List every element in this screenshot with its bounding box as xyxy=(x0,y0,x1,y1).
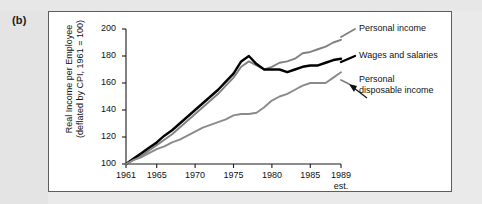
series-label-personal-income: Personal income xyxy=(359,23,426,34)
series-lines xyxy=(126,40,341,164)
figure-frame: Real Income per Employee (deflated by CP… xyxy=(48,11,452,192)
scan-texture-left xyxy=(0,0,48,204)
series-label-pd-line1: Personal xyxy=(359,74,395,84)
x-tick-label: 1989 xyxy=(324,170,358,180)
y-tick-label: 120 xyxy=(90,131,116,141)
x-tick-label: 1965 xyxy=(140,170,174,180)
y-tick-label: 180 xyxy=(90,50,116,60)
series-label-pd-line2: disposable income xyxy=(359,85,434,95)
x-axis-est-note: est. xyxy=(324,181,358,191)
y-tick-label: 200 xyxy=(90,23,116,33)
x-tick-label: 1975 xyxy=(217,170,251,180)
series-label-personal-disposable-income: Personal disposable income xyxy=(359,74,434,95)
figure-root: (b) Real Income per Employee (deflated b… xyxy=(0,0,482,204)
x-tick-label: 1980 xyxy=(255,170,289,180)
y-tick-label: 140 xyxy=(90,104,116,114)
y-tick-label: 100 xyxy=(90,158,116,168)
x-tick-label: 1985 xyxy=(293,170,327,180)
y-tick-label: 160 xyxy=(90,77,116,87)
x-tick-label: 1961 xyxy=(109,170,143,180)
series-label-wages-and-salaries: Wages and salaries xyxy=(359,50,438,61)
x-tick-label: 1970 xyxy=(178,170,212,180)
panel-label: (b) xyxy=(12,14,27,26)
